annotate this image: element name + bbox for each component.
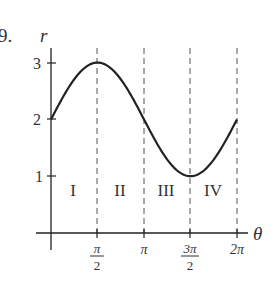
- svg-text:π: π: [94, 241, 101, 256]
- r-axis-label: r: [40, 25, 48, 46]
- region-label-I: I: [70, 181, 76, 200]
- r-tick-label-3: 3: [33, 55, 41, 72]
- r-tick-label-1: 1: [35, 168, 43, 185]
- polar-graph-figure: 9. r θ 3 2 1 π 2 π 3π 2 2π I II III IV: [0, 0, 276, 289]
- svg-text:3π: 3π: [182, 241, 197, 256]
- theta-axis-label: θ: [253, 223, 262, 244]
- theta-tick-label-pi-over-2: π 2: [90, 241, 104, 273]
- region-label-III: III: [158, 181, 175, 200]
- region-label-IV: IV: [204, 181, 223, 200]
- problem-number: 9.: [0, 25, 12, 46]
- region-label-II: II: [114, 181, 126, 200]
- theta-tick-label-pi: π: [140, 242, 148, 257]
- svg-text:2: 2: [187, 258, 194, 273]
- svg-text:2: 2: [94, 258, 101, 273]
- theta-tick-label-2pi: 2π: [230, 242, 245, 257]
- theta-tick-label-3pi-over-2: 3π 2: [181, 241, 199, 273]
- r-tick-label-2: 2: [33, 111, 41, 128]
